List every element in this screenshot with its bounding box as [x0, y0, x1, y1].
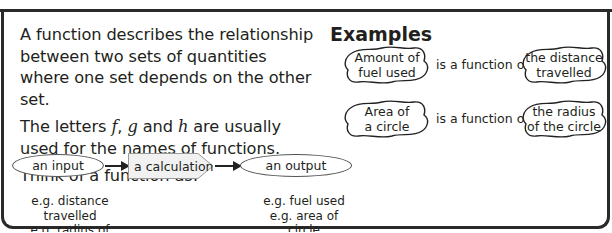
calculation-label: a calculation [134, 153, 214, 179]
cloud-line: the distance [525, 50, 602, 65]
definition-paragraph: A function describes the relationship be… [20, 24, 320, 110]
cloud-line: fuel used [354, 65, 419, 80]
cloud-line: Area of [365, 104, 410, 119]
cloud-line: the radius [527, 104, 601, 119]
output-label: an output [266, 158, 327, 173]
output-example: e.g. fuel used [254, 194, 354, 209]
arrow-icon [105, 165, 129, 167]
letter-h: h [178, 117, 188, 136]
connector-text: is a function of [436, 57, 529, 72]
independent-cloud: the distancetravelled [520, 45, 608, 85]
input-example: e.g. radius of circle [14, 223, 126, 232]
dependent-cloud: Amount offuel used [342, 45, 432, 85]
cloud-line: of the circle [527, 119, 601, 134]
arrow-icon [215, 165, 241, 167]
connector-text: is a function of [436, 111, 529, 126]
output-example: e.g. area of circle [254, 209, 354, 233]
output-ellipse: an output [240, 154, 352, 177]
independent-cloud: the radiusof the circle [520, 99, 608, 139]
examples-heading: Examples [330, 23, 432, 45]
independent-text: the distancetravelled [520, 45, 608, 85]
cloud-line: a circle [365, 119, 410, 134]
input-examples: e.g. distance travelled e.g. radius of c… [14, 194, 126, 232]
input-label: an input [32, 158, 84, 173]
dependent-cloud: Area ofa circle [342, 99, 432, 139]
output-examples: e.g. fuel used e.g. area of circle [254, 194, 354, 232]
letters-prefix: The letters [20, 117, 111, 136]
dependent-text: Amount offuel used [342, 45, 432, 85]
sep: and [138, 117, 178, 136]
cloud-line: Amount of [354, 50, 419, 65]
calculation-box: a calculation [128, 153, 214, 179]
input-example: e.g. distance travelled [14, 194, 126, 223]
letter-g: g [127, 117, 137, 136]
cloud-line: travelled [525, 65, 602, 80]
input-ellipse: an input [12, 154, 104, 177]
sep: , [117, 117, 127, 136]
dependent-text: Area ofa circle [342, 99, 432, 139]
independent-text: the radiusof the circle [520, 99, 608, 139]
